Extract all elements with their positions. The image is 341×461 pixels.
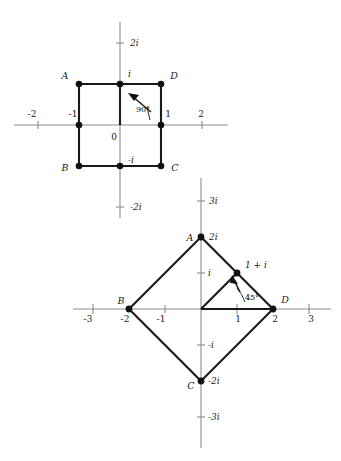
top-xtick-label-1: 1 [165,109,171,119]
figure-canvas: -2 -1 0 1 2 2i i -i -2i A D B C 90° [0,0,341,461]
top-xtick-label-neg1: -1 [69,109,78,119]
bottom-vertex-label-D: D [280,294,289,305]
bottom-angle-arc [237,288,245,302]
top-point-1 [158,122,165,129]
top-ytick-label-i: i [128,69,131,79]
bottom-plot: -3 -2 -1 1 2 3 3i 2i i -i -2i -3i A B C … [73,178,331,448]
bottom-xtick-label-neg2: -2 [121,314,130,324]
top-vertex-label-B: B [61,162,69,173]
bottom-xtick-label-1: 1 [235,314,241,324]
bottom-xtick-label-3: 3 [308,314,314,324]
top-ytick-label-2i: 2i [129,38,139,48]
bottom-point-label-1plusi: 1 + i [245,260,267,270]
complex-plane-figure: -2 -1 0 1 2 2i i -i -2i A D B C 90° [0,0,341,461]
top-ytick-label-neg2i: -2i [130,202,142,212]
bottom-ytick-label-3i: 3i [209,196,218,206]
top-point-negi [117,163,124,170]
bottom-point-1plusi [234,270,241,277]
bottom-vertex-label-C: C [187,380,195,391]
bottom-ytick-label-2i: 2i [208,232,218,242]
bottom-ytick-label-neg2i: -2i [208,376,220,386]
top-vertex-label-C: C [171,162,179,173]
bottom-ytick-label-i: i [208,268,211,278]
top-point-neg1 [76,122,83,129]
top-point-i [117,81,124,88]
top-point-B [76,163,83,170]
bottom-ytick-label-neg3i: -3i [208,412,220,422]
top-vertex-label-D: D [169,70,178,81]
bottom-ytick-label-negi: -i [208,340,214,350]
bottom-xtick-label-neg3: -3 [84,314,93,324]
bottom-point-C [198,378,205,385]
top-point-C [158,163,165,170]
bottom-point-D [270,306,277,313]
top-vertex-label-A: A [61,70,69,81]
top-xtick-label-2: 2 [198,109,204,119]
top-xtick-label-neg2: -2 [28,109,37,119]
top-point-A [76,81,83,88]
bottom-point-A [198,234,205,241]
bottom-vertex-label-B: B [117,295,125,306]
bottom-point-B [126,306,133,313]
top-point-D [158,81,165,88]
top-origin-label: 0 [111,132,117,142]
top-angle-label-90: 90° [136,105,150,114]
top-plot: -2 -1 0 1 2 2i i -i -2i A D B C 90° [14,22,228,218]
bottom-xtick-label-neg1: -1 [157,314,166,324]
bottom-vertex-label-A: A [186,232,194,243]
top-ytick-label-negi: -i [128,155,134,165]
bottom-xtick-label-2: 2 [272,314,278,324]
bottom-angle-label-45: 45° [245,293,259,302]
